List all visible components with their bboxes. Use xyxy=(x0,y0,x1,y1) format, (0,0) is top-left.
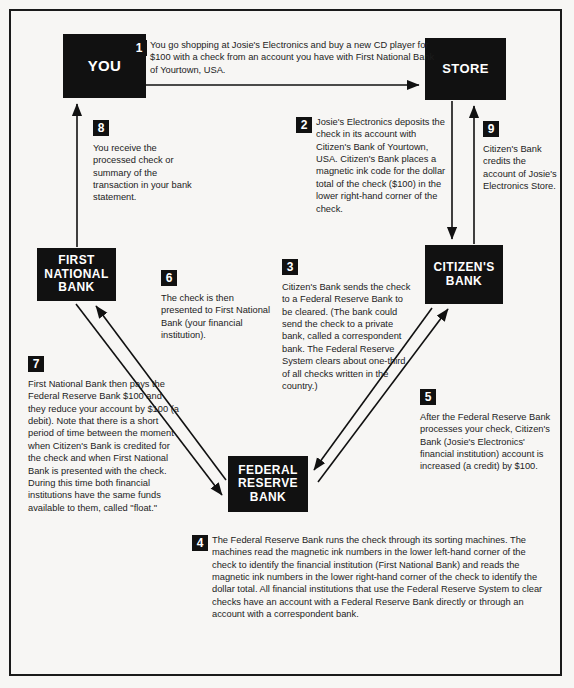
node-store-label: STORE xyxy=(442,62,489,77)
node-federal-reserve-bank-label: FEDERAL RESERVE BANK xyxy=(238,464,298,504)
step-text-2: Josie's Electronics deposits the check i… xyxy=(316,116,446,215)
step-text-9: Citizen's Bank credits the account of Jo… xyxy=(483,143,561,192)
step-text-1: You go shopping at Josie's Electronics a… xyxy=(150,39,435,76)
node-first-national-bank: FIRST NATIONAL BANK xyxy=(37,248,116,301)
step-badge-6: 6 xyxy=(161,270,177,286)
node-first-national-bank-label: FIRST NATIONAL BANK xyxy=(44,254,108,294)
node-federal-reserve-bank: FEDERAL RESERVE BANK xyxy=(228,456,308,512)
step-badge-2: 2 xyxy=(296,117,312,133)
step-badge-5: 5 xyxy=(420,389,436,405)
step-badge-4: 4 xyxy=(192,535,208,551)
step-badge-7: 7 xyxy=(28,356,44,372)
step-badge-8: 8 xyxy=(93,120,109,136)
step-badge-3: 3 xyxy=(282,259,298,275)
step-text-3: Citizen's Bank sends the check to a Fede… xyxy=(282,281,415,392)
step-badge-9: 9 xyxy=(483,121,499,137)
step-text-5: After the Federal Reserve Bank processes… xyxy=(420,411,555,473)
node-citizens-bank-label: CITIZEN'S BANK xyxy=(433,261,494,288)
step-text-8: You receive the processed check or summa… xyxy=(93,142,193,204)
step-badge-1: 1 xyxy=(131,40,147,56)
node-citizens-bank: CITIZEN'S BANK xyxy=(425,245,503,304)
step-text-7: First National Bank then pays the Federa… xyxy=(28,378,180,514)
diagram-page: YOU STORE FIRST NATIONAL BANK CITIZEN'S … xyxy=(0,0,574,688)
step-text-6: The check is then presented to First Nat… xyxy=(161,292,271,341)
step-text-4: The Federal Reserve Bank runs the check … xyxy=(212,534,552,621)
node-you-label: YOU xyxy=(88,58,122,75)
node-store: STORE xyxy=(425,38,506,100)
